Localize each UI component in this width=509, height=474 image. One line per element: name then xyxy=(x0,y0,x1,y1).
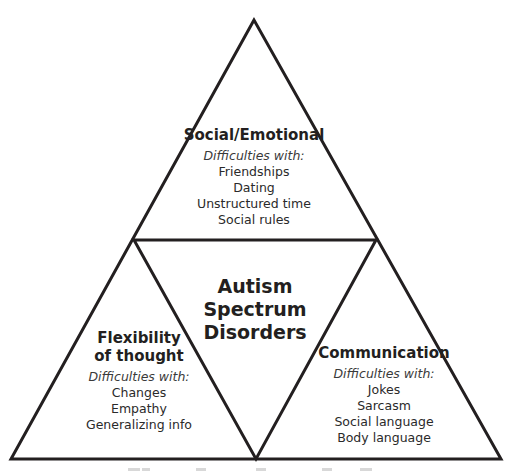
section-flexibility: Flexibility of thought Difficulties with… xyxy=(74,329,204,433)
list-item: Generalizing info xyxy=(74,417,204,433)
section-communication: Communication Difficulties with: Jokes S… xyxy=(314,344,454,446)
list-item: Sarcasm xyxy=(314,398,454,414)
list-item: Changes xyxy=(74,385,204,401)
list-item: Unstructured time xyxy=(154,196,354,212)
list-item: Body language xyxy=(314,430,454,446)
section-title: of thought xyxy=(74,347,204,365)
section-title: Flexibility xyxy=(74,329,204,347)
list-item: Jokes xyxy=(314,382,454,398)
section-title: Social/Emotional xyxy=(154,126,354,144)
section-subtitle: Difficulties with: xyxy=(314,366,454,382)
list-item: Empathy xyxy=(74,401,204,417)
section-social-emotional: Social/Emotional Difficulties with: Frie… xyxy=(154,126,354,228)
section-subtitle: Difficulties with: xyxy=(74,369,204,385)
list-item: Social rules xyxy=(154,212,354,228)
center-title-line: Spectrum xyxy=(180,298,330,321)
clipped-caption-remnant xyxy=(0,468,509,474)
list-item: Dating xyxy=(154,180,354,196)
list-item: Friendships xyxy=(154,164,354,180)
list-item: Social language xyxy=(314,414,454,430)
center-title-line: Autism xyxy=(180,275,330,298)
section-subtitle: Difficulties with: xyxy=(154,148,354,164)
section-title: Communication xyxy=(314,344,454,362)
